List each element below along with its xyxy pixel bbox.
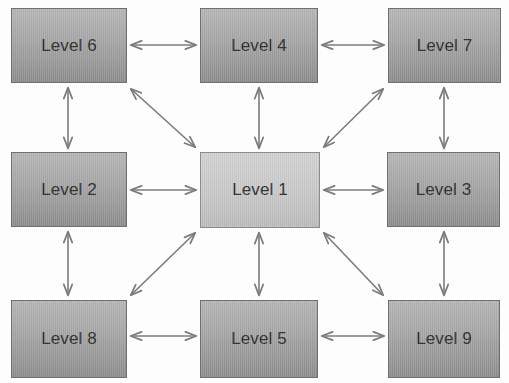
node-label: Level 3 — [416, 180, 472, 200]
node-level6[interactable]: Level 6 — [11, 8, 127, 83]
node-label: Level 6 — [41, 36, 97, 56]
node-level7[interactable]: Level 7 — [388, 8, 501, 83]
connector-level6-level1 — [131, 89, 195, 147]
node-level2[interactable]: Level 2 — [11, 152, 127, 227]
connector-level8-level1 — [131, 233, 195, 295]
node-label: Level 7 — [417, 36, 473, 56]
node-label: Level 2 — [41, 180, 97, 200]
node-level9[interactable]: Level 9 — [388, 300, 500, 378]
node-label: Level 8 — [41, 329, 97, 349]
node-level5[interactable]: Level 5 — [200, 300, 318, 378]
node-level8[interactable]: Level 8 — [11, 300, 127, 378]
connector-level9-level1 — [324, 233, 383, 295]
connector-level7-level1 — [324, 89, 383, 147]
node-label: Level 5 — [231, 329, 287, 349]
node-level3[interactable]: Level 3 — [387, 152, 500, 227]
node-label: Level 4 — [231, 36, 287, 56]
node-level1[interactable]: Level 1 — [200, 152, 320, 228]
level-network-diagram: Level 6Level 4Level 7Level 2Level 1Level… — [0, 0, 509, 383]
node-label: Level 1 — [232, 180, 288, 200]
node-label: Level 9 — [416, 329, 472, 349]
node-level4[interactable]: Level 4 — [200, 8, 318, 83]
